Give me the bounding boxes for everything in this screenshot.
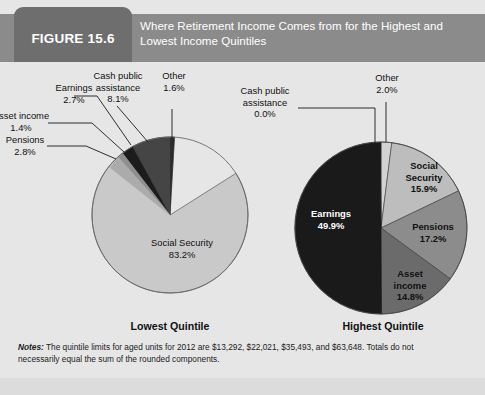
- leader-left-pensions: [47, 146, 116, 159]
- callout-left-asset-income: Asset income 1.4%: [0, 110, 52, 133]
- notes: Notes: The quintile limits for aged unit…: [18, 341, 438, 365]
- bottom-strip: [0, 378, 485, 395]
- figure-title-line-1: Where Retirement Income Comes from for t…: [140, 18, 470, 33]
- notes-lead: Notes:: [18, 342, 44, 352]
- callout-right-cash-public-assistance: Cash public assistance 0.0%: [228, 85, 302, 120]
- callout-left-other: Other 1.6%: [152, 70, 196, 93]
- left-slice-other: [170, 137, 175, 215]
- label-right-asset-income: Asset income 14.8%: [381, 268, 439, 303]
- leader-right-cash-public-assistance: [298, 108, 375, 147]
- callout-left-pensions: Pensions 2.8%: [0, 134, 50, 157]
- figure-title: Where Retirement Income Comes from for t…: [140, 18, 470, 48]
- label-right-social-security: Social Security 15.9%: [394, 160, 454, 195]
- callout-left-cash-public-assistance: Cash public assistance 8.1%: [80, 70, 156, 105]
- plot-area: Earnings 2.7% Cash public assistance 8.1…: [0, 62, 485, 334]
- notes-body: The quintile limits for aged units for 2…: [18, 342, 413, 364]
- leader-left-asset-income: [48, 123, 124, 152]
- caption-lowest-quintile: Lowest Quintile: [120, 320, 220, 332]
- caption-highest-quintile: Highest Quintile: [330, 320, 436, 332]
- callout-right-other: Other 2.0%: [364, 72, 410, 95]
- right-pie-leader-lines: [298, 102, 386, 147]
- figure-number-label: FIGURE 15.6: [14, 14, 132, 62]
- figure-container: FIGURE 15.6 Where Retirement Income Come…: [0, 0, 485, 395]
- left-pie: [92, 137, 248, 293]
- leader-left-cash-public-assistance: [117, 106, 148, 142]
- label-left-social-security: Social Security 83.2%: [132, 237, 232, 260]
- figure-title-line-2: Lowest Income Quintiles: [140, 33, 470, 48]
- label-right-earnings: Earnings 49.9%: [295, 208, 367, 231]
- label-right-pensions: Pensions 17.2%: [400, 221, 466, 244]
